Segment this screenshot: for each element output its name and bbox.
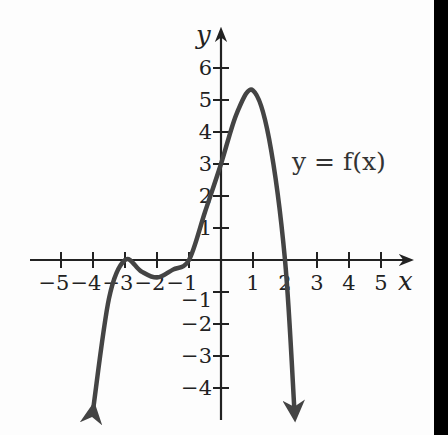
x-axis-label: x	[398, 266, 413, 296]
function-plot: −5−4−3−2−112345−4−3−2−1123456 x y y = f(…	[0, 0, 448, 435]
y-axis-label: y	[195, 20, 211, 50]
x-tick-label: 1	[246, 271, 259, 295]
y-tick-label: −1	[181, 288, 212, 312]
y-tick-label: 5	[199, 88, 212, 112]
page-edge-scan-artifact	[434, 0, 448, 435]
x-tick-label: −5	[39, 271, 70, 295]
y-tick-label: 3	[199, 152, 212, 176]
x-tick-label: 3	[310, 271, 323, 295]
graph-figure: −5−4−3−2−112345−4−3−2−1123456 x y y = f(…	[0, 0, 448, 435]
x-tick-label: −4	[71, 271, 102, 295]
y-tick-label: 6	[199, 56, 212, 80]
y-tick-label: −3	[181, 344, 212, 368]
x-tick-label: 5	[374, 271, 387, 295]
y-tick-label: 4	[199, 120, 212, 144]
curve-label: y = f(x)	[291, 147, 386, 176]
y-tick-label: −4	[181, 376, 212, 400]
x-tick-label: 4	[342, 271, 355, 295]
y-tick-label: −2	[181, 312, 212, 336]
